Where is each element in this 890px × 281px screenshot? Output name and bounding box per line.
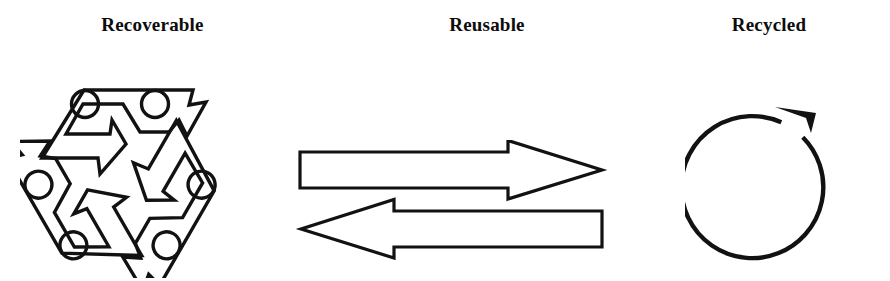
arrow-right-icon: [300, 141, 602, 200]
recycling-triangle-symbol: [20, 78, 235, 278]
panel-title-recoverable: Recoverable: [0, 14, 300, 36]
panel-reusable: Reusable: [300, 0, 630, 281]
circular-loop-arc: [685, 116, 823, 258]
panel-title-reusable: Reusable: [300, 14, 630, 36]
recycle-circle-2: [142, 91, 169, 118]
recycle-circle-4: [148, 227, 185, 264]
arrow-left-icon: [301, 200, 602, 259]
waste-symbols-figure: Recoverable Reusable: [0, 0, 890, 281]
panel-title-recycled: Recycled: [630, 14, 890, 36]
recycle-arrow-left: [20, 106, 156, 278]
circular-arrow-symbol: [685, 88, 845, 278]
recycle-circle-6: [20, 166, 57, 203]
panel-recoverable: Recoverable: [0, 0, 300, 281]
panel-recycled: Recycled: [630, 0, 890, 281]
two-way-arrows-symbol: [290, 140, 630, 260]
